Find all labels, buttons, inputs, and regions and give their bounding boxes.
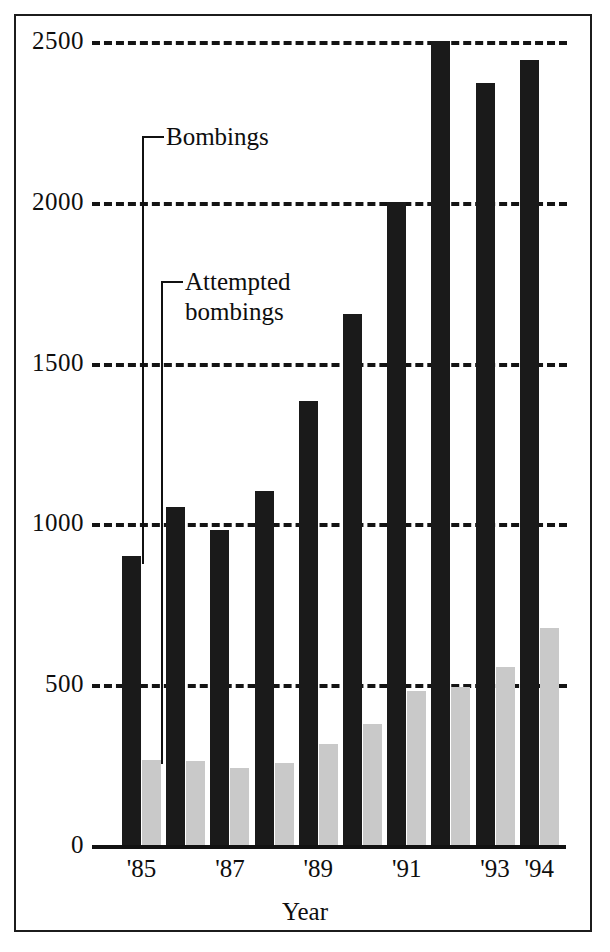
bar-attempted-bombings-91 bbox=[407, 691, 426, 845]
gridline-1000 bbox=[92, 523, 567, 527]
x-axis-title: Year bbox=[0, 898, 610, 926]
attempted-bombings-leader-horizontal bbox=[161, 281, 183, 283]
bar-attempted-bombings-86 bbox=[186, 761, 205, 845]
plot-area: 05001000150020002500 '85'87'89'91'93'94 … bbox=[0, 0, 610, 952]
attempted-bombings-callout-label: Attempted bombings bbox=[185, 267, 375, 327]
y-tick-label-1000: 1000 bbox=[0, 510, 84, 535]
bar-attempted-bombings-85 bbox=[142, 760, 161, 845]
x-tick-label-91: '91 bbox=[377, 855, 437, 883]
y-tick-label-2000: 2000 bbox=[0, 189, 84, 214]
bar-attempted-bombings-87 bbox=[230, 768, 249, 845]
bar-bombings-85 bbox=[122, 556, 141, 845]
bar-bombings-90 bbox=[343, 314, 362, 845]
bar-bombings-92 bbox=[431, 41, 450, 845]
bar-attempted-bombings-89 bbox=[319, 744, 338, 845]
bar-bombings-87 bbox=[210, 530, 229, 845]
bar-bombings-88 bbox=[255, 491, 274, 845]
y-tick-label-1500: 1500 bbox=[0, 350, 84, 375]
gridline-2000 bbox=[92, 202, 567, 206]
bombings-leader-horizontal bbox=[142, 136, 164, 138]
bar-attempted-bombings-88 bbox=[275, 763, 294, 845]
y-tick-label-2500: 2500 bbox=[0, 28, 84, 53]
x-tick-label-94: '94 bbox=[509, 855, 569, 883]
bombings-callout-label: Bombings bbox=[166, 122, 269, 152]
bar-attempted-bombings-93 bbox=[496, 667, 515, 845]
bar-bombings-94 bbox=[520, 60, 539, 845]
bar-attempted-bombings-94 bbox=[540, 628, 559, 845]
gridline-2500 bbox=[92, 41, 567, 45]
x-tick-label-85: '85 bbox=[112, 855, 172, 883]
x-tick-label-87: '87 bbox=[200, 855, 260, 883]
bar-bombings-86 bbox=[166, 507, 185, 845]
bar-bombings-93 bbox=[476, 83, 495, 845]
bar-bombings-89 bbox=[299, 401, 318, 845]
chart-figure: 05001000150020002500 '85'87'89'91'93'94 … bbox=[0, 0, 610, 952]
gridline-1500 bbox=[92, 363, 567, 367]
bar-bombings-91 bbox=[387, 202, 406, 845]
bar-attempted-bombings-90 bbox=[363, 724, 382, 845]
bar-attempted-bombings-92 bbox=[451, 687, 470, 845]
x-tick-label-89: '89 bbox=[288, 855, 348, 883]
y-tick-label-500: 500 bbox=[0, 671, 84, 696]
bombings-leader-vertical bbox=[142, 136, 144, 564]
x-axis-line bbox=[92, 845, 566, 849]
y-tick-label-0: 0 bbox=[0, 832, 84, 857]
attempted-bombings-leader-vertical bbox=[161, 281, 163, 764]
